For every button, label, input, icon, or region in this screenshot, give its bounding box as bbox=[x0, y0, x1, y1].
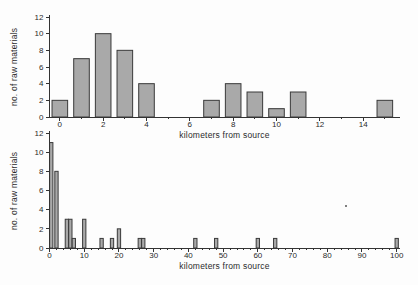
bottom-chart-y-axis-label: no. of raw materials bbox=[9, 133, 21, 248]
tick-label: 90 bbox=[358, 251, 367, 260]
tick-label: 10 bbox=[35, 29, 44, 38]
tick-label: 10 bbox=[35, 148, 44, 157]
bottom-chart-bar-60km bbox=[256, 238, 259, 248]
tick-label: 8 bbox=[231, 120, 236, 129]
tick-label: 10 bbox=[80, 251, 89, 260]
bottom-chart-bar-65km bbox=[274, 238, 277, 248]
tick-label: 2 bbox=[101, 120, 106, 129]
top-chart-bar-0km bbox=[52, 100, 68, 117]
bottom-chart: 0102030405060708090100024681012 bbox=[35, 129, 404, 260]
tick-label: 0 bbox=[47, 251, 52, 260]
bottom-chart-bar-42km bbox=[194, 238, 197, 248]
tick-label: 8 bbox=[39, 167, 44, 176]
tick-label: 0 bbox=[58, 120, 63, 129]
tick-label: 6 bbox=[39, 186, 44, 195]
tick-label: 0 bbox=[39, 113, 44, 122]
bottom-chart-bar-2km bbox=[55, 171, 58, 248]
bottom-chart-bar-27km bbox=[142, 238, 145, 248]
top-chart: 02468101214024681012 bbox=[35, 13, 400, 129]
bottom-chart-bar-48km bbox=[215, 238, 218, 248]
tick-label: 12 bbox=[35, 13, 44, 22]
bottom-chart-bar-5km bbox=[65, 219, 68, 248]
tick-label: 4 bbox=[39, 205, 44, 214]
top-chart-bar-4km bbox=[139, 84, 155, 117]
top-chart-bar-1km bbox=[74, 59, 90, 117]
charts-canvas: 0246810121402468101201020304050607080901… bbox=[0, 0, 418, 285]
tick-label: 70 bbox=[288, 251, 297, 260]
bottom-chart-bar-20km bbox=[117, 229, 120, 248]
bottom-chart-bar-18km bbox=[110, 238, 113, 248]
tick-label: 0 bbox=[39, 244, 44, 253]
tick-label: 6 bbox=[188, 120, 193, 129]
tick-label: 2 bbox=[39, 225, 44, 234]
bottom-chart-bar-0km bbox=[50, 143, 53, 248]
top-chart-bar-10km bbox=[269, 109, 285, 117]
scan-speck bbox=[345, 205, 347, 207]
top-chart-bar-7km bbox=[204, 100, 220, 117]
tick-label: 40 bbox=[184, 251, 193, 260]
tick-label: 10 bbox=[272, 120, 281, 129]
tick-label: 30 bbox=[149, 251, 158, 260]
tick-label: 20 bbox=[115, 251, 124, 260]
bottom-chart-bar-100km bbox=[395, 238, 398, 248]
raw-materials-distance-figure: 0246810121402468101201020304050607080901… bbox=[0, 0, 418, 285]
bottom-chart-bar-6km bbox=[69, 219, 72, 248]
bottom-chart-bar-26km bbox=[138, 238, 141, 248]
top-chart-bar-2km bbox=[95, 34, 111, 117]
bottom-chart-x-axis-label: kilometers from source bbox=[49, 261, 400, 271]
top-chart-bar-15km bbox=[377, 100, 393, 117]
tick-label: 80 bbox=[323, 251, 332, 260]
tick-label: 4 bbox=[144, 120, 149, 129]
top-chart-bar-3km bbox=[117, 50, 133, 117]
tick-label: 12 bbox=[315, 120, 324, 129]
tick-label: 4 bbox=[39, 79, 44, 88]
top-chart-bar-8km bbox=[225, 84, 241, 117]
tick-label: 100 bbox=[390, 251, 404, 260]
bottom-chart-bar-10km bbox=[83, 219, 86, 248]
bottom-chart-bar-7km bbox=[72, 238, 75, 248]
top-chart-bar-11km bbox=[290, 92, 306, 117]
tick-label: 8 bbox=[39, 46, 44, 55]
top-chart-y-axis-label: no. of raw materials bbox=[9, 17, 21, 117]
tick-label: 6 bbox=[39, 63, 44, 72]
tick-label: 50 bbox=[219, 251, 228, 260]
tick-label: 2 bbox=[39, 96, 44, 105]
bottom-chart-bar-15km bbox=[100, 238, 103, 248]
top-chart-bar-9km bbox=[247, 92, 263, 117]
tick-label: 12 bbox=[35, 129, 44, 138]
tick-label: 60 bbox=[253, 251, 262, 260]
top-chart-x-axis-label: kilometers from source bbox=[49, 130, 400, 140]
tick-label: 14 bbox=[359, 120, 368, 129]
